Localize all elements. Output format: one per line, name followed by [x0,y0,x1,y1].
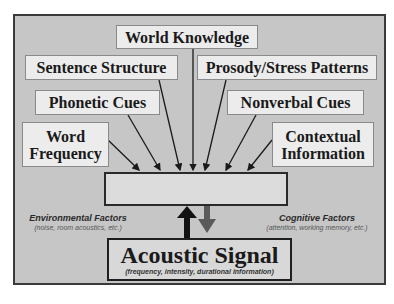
acoustic-signal-subtitle: (frequency, intensity, durational inform… [109,268,290,275]
box-word-frequency: Word Frequency [22,122,109,167]
label-world-knowledge: World Knowledge [125,29,249,46]
arrow-prosody [205,80,226,170]
label-nonverbal-cues: Nonverbal Cues [241,94,351,111]
box-prosody-stress-patterns: Prosody/Stress Patterns [197,55,377,80]
label-prosody-stress-patterns: Prosody/Stress Patterns [206,59,369,76]
environmental-factors-detail: (noise, room acoustics, etc.) [28,224,128,231]
cognitive-factors-detail: (attention, working memory, etc.) [257,224,377,231]
box-nonverbal-cues: Nonverbal Cues [227,90,364,115]
arrow-sentence-structure [159,80,180,170]
box-world-knowledge: World Knowledge [116,25,258,49]
cognitive-factors: Cognitive Factors (attention, working me… [257,213,377,231]
box-sentence-structure: Sentence Structure [25,55,178,80]
arrow-phonetic-cues [128,115,160,170]
upward-arrow-icon [177,206,197,238]
cognitive-factors-heading: Cognitive Factors [257,213,377,223]
environmental-factors-heading: Environmental Factors [28,213,128,223]
box-contextual-information: Contextual Information [272,122,374,167]
downward-arrow-icon [198,206,216,233]
label-contextual-information-line2: Information [281,145,365,162]
label-phonetic-cues: Phonetic Cues [49,94,146,111]
label-word-frequency-line1: Word [46,128,85,145]
arrow-nonverbal-cues [226,115,256,170]
arrow-contextual-information [248,140,272,170]
environmental-factors: Environmental Factors (noise, room acous… [28,213,128,231]
box-phonetic-cues: Phonetic Cues [35,90,160,115]
label-contextual-information-line1: Contextual [285,128,361,145]
label-word-frequency-line2: Frequency [29,145,102,162]
label-sentence-structure: Sentence Structure [37,59,167,76]
arrow-word-frequency [108,140,139,170]
acoustic-signal-title: Acoustic Signal [109,243,290,267]
central-perception-box [104,172,288,206]
acoustic-signal-box: Acoustic Signal (frequency, intensity, d… [107,238,292,281]
